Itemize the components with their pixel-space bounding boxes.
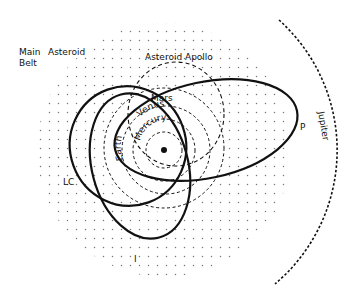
- label-asteroid-left: Asteroid: [48, 47, 85, 57]
- label-orbit-i: I: [134, 254, 137, 264]
- label-orbit-lc: LC: [63, 177, 74, 187]
- sun: [161, 147, 167, 153]
- label-main-belt-line2: Belt: [19, 58, 37, 68]
- label-main-belt-line1: Main: [19, 47, 41, 57]
- label-mars: Mars: [151, 93, 173, 103]
- main-asteroid-belt: [0, 0, 350, 300]
- solar-system-orbit-diagram: Earth Venus Mercury Jupiter Main Belt As…: [0, 0, 350, 300]
- label-orbit-p: P: [300, 122, 305, 132]
- label-asteroid-apollo: Asteroid Apollo: [145, 52, 213, 62]
